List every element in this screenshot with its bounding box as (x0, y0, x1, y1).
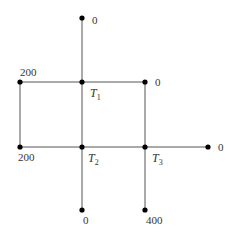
node-T3 (142, 144, 147, 149)
label-subscript: 3 (159, 158, 163, 167)
value-label-top: 0 (92, 14, 98, 26)
node-bottom-T3 (142, 207, 147, 212)
node-left-top (17, 79, 22, 84)
value-label-right-top: 0 (155, 76, 161, 88)
node-right-top (142, 79, 147, 84)
value-label-left-top: 200 (20, 66, 37, 78)
nodes (17, 15, 210, 212)
node-top (79, 15, 84, 20)
edges (20, 18, 208, 210)
label-subscript: 2 (95, 158, 99, 167)
value-label-bottom-T3: 400 (146, 214, 163, 226)
node-T1 (79, 79, 84, 84)
node-T2 (79, 144, 84, 149)
node-left-bottom (17, 144, 22, 149)
label-T2: T2 (88, 151, 99, 167)
label-subscript: 1 (97, 93, 101, 102)
value-label-right: 0 (218, 141, 224, 153)
network-diagram: 0T12000200T2T300400 (0, 0, 239, 235)
label-T3: T3 (152, 151, 163, 167)
node-right (205, 144, 210, 149)
value-label-left-bottom: 200 (18, 151, 35, 163)
labels: 0T12000200T2T300400 (18, 14, 224, 226)
label-T1: T1 (90, 86, 101, 102)
node-bottom-T2 (79, 207, 84, 212)
value-label-bottom-T2: 0 (83, 214, 89, 226)
